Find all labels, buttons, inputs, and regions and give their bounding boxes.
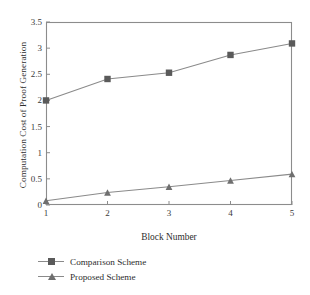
legend-marker-square-icon — [38, 256, 64, 268]
x-tick-label: 3 — [157, 208, 181, 218]
legend-item-comparison-scheme: Comparison Scheme — [38, 254, 146, 269]
y-tick-label: 2 — [18, 95, 42, 105]
data-point-triangle-marker — [166, 184, 173, 190]
series-line-comparison-scheme — [46, 43, 292, 100]
y-tick-label: 2.5 — [18, 69, 42, 79]
legend: Comparison Scheme Proposed Scheme — [38, 254, 146, 284]
legend-label: Comparison Scheme — [70, 257, 146, 267]
y-tick-label: 0.5 — [18, 174, 42, 184]
y-tick-label: 3.5 — [18, 17, 42, 27]
x-tick-label: 1 — [34, 208, 58, 218]
y-tick-label: 1 — [18, 148, 42, 158]
x-tick-label: 4 — [219, 208, 243, 218]
data-point-square-marker — [43, 97, 49, 103]
legend-item-proposed-scheme: Proposed Scheme — [38, 269, 146, 284]
y-tick-label: 3 — [18, 43, 42, 53]
data-point-square-marker — [166, 70, 172, 76]
data-point-square-marker — [227, 52, 233, 58]
data-point-triangle-marker — [289, 171, 296, 177]
plot-frame — [47, 23, 292, 205]
legend-label: Proposed Scheme — [70, 272, 136, 282]
figure: Computation Cost of Proof Generation 3.5… — [0, 0, 310, 295]
x-tick-label: 2 — [96, 208, 120, 218]
data-point-square-marker — [289, 40, 295, 46]
x-axis-title: Block Number — [46, 232, 292, 242]
y-tick-label: 1.5 — [18, 122, 42, 132]
series-line-proposed-scheme — [46, 174, 292, 201]
plot-area — [0, 0, 310, 295]
y-axis-tick-labels: 3.5 3 2.5 2 1.5 1 0.5 0 — [16, 0, 42, 295]
x-tick-label: 5 — [280, 208, 304, 218]
data-point-triangle-marker — [43, 198, 50, 204]
data-point-triangle-marker — [104, 189, 111, 195]
data-point-triangle-marker — [227, 177, 234, 183]
legend-marker-triangle-icon — [38, 271, 64, 283]
data-point-square-marker — [104, 76, 110, 82]
